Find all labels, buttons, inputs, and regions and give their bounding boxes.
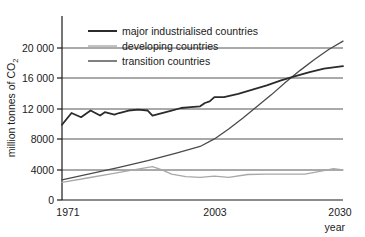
- y-tick-label-20000: 20 000: [22, 42, 54, 54]
- legend-label-transition-countries: transition countries: [122, 55, 210, 67]
- y-tick-label-0: 0: [48, 194, 54, 206]
- y-tick-label-12000: 12 000: [22, 103, 54, 115]
- y-axis-label-main: million tonnes of CO: [5, 63, 17, 158]
- y-tick-labels: 20 000 16 000 12 000 8000 4000 0: [22, 42, 54, 206]
- y-tick-label-4000: 4000: [31, 164, 55, 176]
- legend-label-major-industrialised-countries: major industrialised countries: [122, 25, 258, 37]
- x-tick-label-2003: 2003: [203, 206, 227, 218]
- y-tick-marks: [57, 48, 62, 200]
- y-axis-label-subscript: 2: [11, 59, 20, 63]
- y-tick-label-8000: 8000: [31, 133, 55, 145]
- legend-label-developing-countries: developing countries: [122, 40, 218, 52]
- co2-emissions-line-chart: 20 000 16 000 12 000 8000 4000 0 1971 20…: [0, 0, 365, 237]
- y-tick-label-16000: 16 000: [22, 72, 54, 84]
- x-axis-label: year: [325, 221, 346, 233]
- y-axis-label: million tonnes of CO2: [5, 59, 20, 158]
- x-tick-label-2030: 2030: [328, 206, 352, 218]
- x-tick-labels: 1971 2003 2030: [56, 206, 352, 218]
- x-tick-label-1971: 1971: [56, 206, 80, 218]
- chart-canvas: 20 000 16 000 12 000 8000 4000 0 1971 20…: [0, 0, 365, 237]
